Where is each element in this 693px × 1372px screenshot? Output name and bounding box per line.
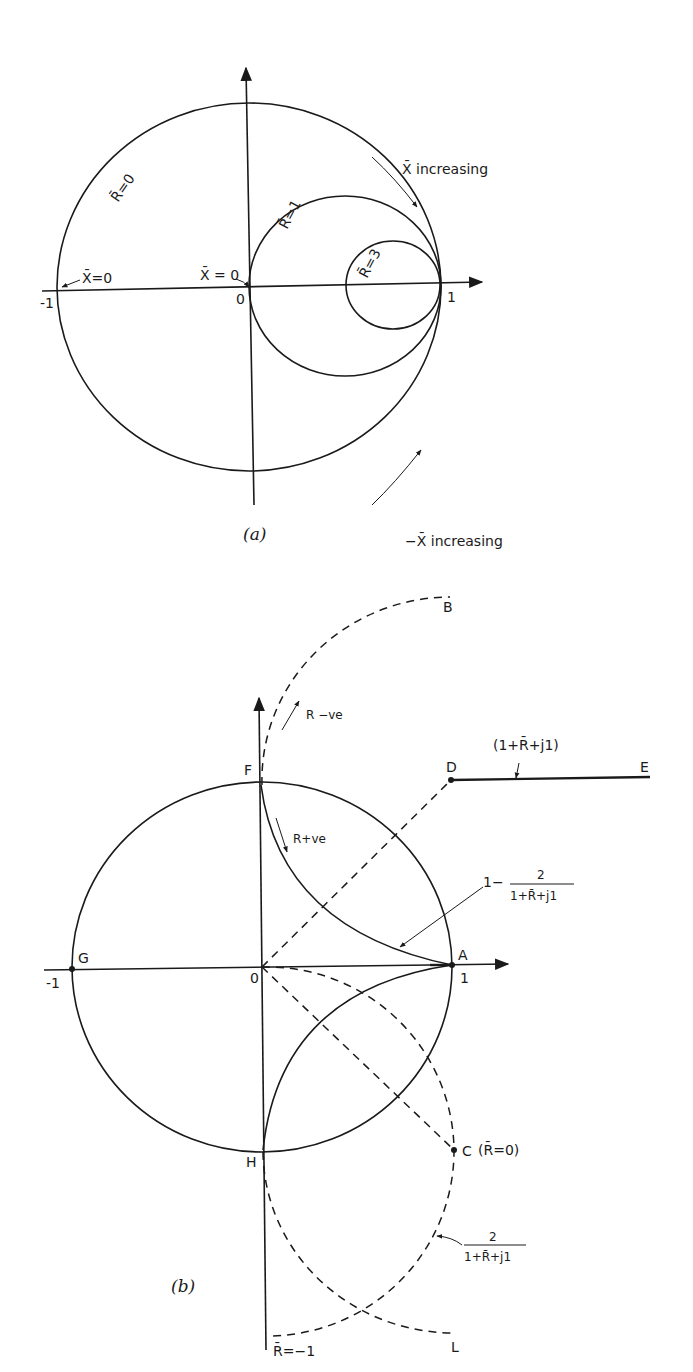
- one-minus-expr-pointer-icon: [400, 887, 483, 947]
- label-one-minus: 1−: [483, 874, 504, 890]
- de-expr-pointer-icon: [516, 763, 519, 778]
- label-r0: R̄=0: [107, 170, 138, 204]
- neg-x-increasing-arrow-icon: [372, 450, 421, 505]
- figure-a: R̄=0 R̄=1 R̄=3 X̄=0 X̄ = 0 -1 0 1 X̄ inc…: [40, 68, 503, 549]
- label-zero-b: 0: [250, 970, 259, 986]
- label-x-increasing: X̄ increasing: [402, 160, 488, 177]
- dashed-o-to-d: [262, 780, 451, 967]
- figure-b: B F D E G A C H L -1 0 1 R −ve R+ve (1+R…: [44, 597, 650, 1359]
- label-neg-x-increasing: −X̄ increasing: [405, 532, 503, 549]
- arc-f-to-a: [261, 785, 452, 965]
- dashed-arc-h-to-l: [263, 1152, 455, 1333]
- label-a: A: [458, 947, 468, 963]
- label-frac-num-bottom: 2: [489, 1230, 497, 1244]
- label-b: B: [443, 599, 453, 615]
- dashed-arc-f-to-b: [262, 597, 450, 785]
- label-minus-one-b: -1: [46, 975, 60, 991]
- label-x0-left: X̄=0: [82, 269, 112, 286]
- label-e: E: [640, 759, 649, 775]
- point-g: [69, 966, 75, 972]
- label-frac-den-bottom: 1+R̄+j1: [464, 1250, 511, 1264]
- caption-b: (b): [171, 1276, 195, 1296]
- label-zero-a: 0: [236, 291, 245, 307]
- caption-a: (a): [243, 524, 266, 544]
- label-frac-num-top: 2: [537, 868, 545, 882]
- label-g: G: [78, 950, 89, 966]
- x0-left-pointer-icon: [62, 280, 80, 287]
- label-one-b: 1: [460, 970, 469, 986]
- label-f: F: [244, 762, 252, 778]
- label-d: D: [446, 759, 457, 775]
- label-one-a: 1: [447, 289, 456, 305]
- label-r-minus-one: R̄=−1: [273, 1342, 315, 1359]
- point-d: [448, 777, 454, 783]
- label-l: L: [451, 1339, 459, 1355]
- frac-expr-pointer-icon: [437, 1236, 462, 1245]
- label-c-expression: (R̄=0): [478, 1141, 519, 1158]
- label-h: H: [246, 1154, 257, 1170]
- label-r-positive: R+ve: [293, 832, 326, 846]
- r-negative-arrow-icon: [282, 701, 299, 730]
- point-a: [449, 962, 455, 968]
- label-frac-den-top: 1+R̄+j1: [510, 889, 557, 903]
- label-r1: R̄=1: [275, 197, 304, 232]
- label-c: C: [462, 1143, 472, 1159]
- label-r3: R̄=3: [355, 246, 384, 281]
- label-x0-origin: X̄ = 0: [200, 266, 239, 283]
- smith-chart-figure: R̄=0 R̄=1 R̄=3 X̄=0 X̄ = 0 -1 0 1 X̄ inc…: [0, 0, 693, 1372]
- label-minus-one-a: -1: [40, 295, 54, 311]
- label-de-expression: (1+R̄+j1): [493, 736, 559, 753]
- line-d-to-e: [451, 777, 650, 780]
- dashed-arc-o-c-r-minus-one: [262, 967, 454, 1336]
- point-c: [451, 1147, 457, 1153]
- label-r-negative: R −ve: [306, 708, 343, 722]
